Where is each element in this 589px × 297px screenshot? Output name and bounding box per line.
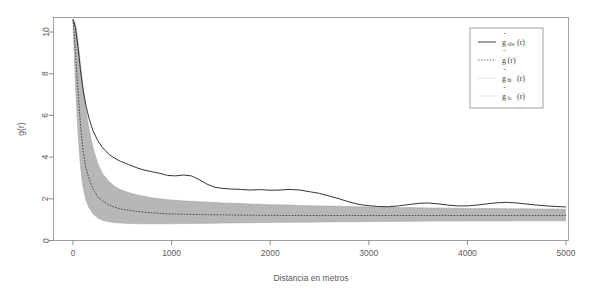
legend-symbol: g [502,56,506,65]
y-tick-label: 0 [41,238,51,243]
x-tick-label: 5000 [557,248,576,258]
y-tick-label: 4 [41,154,51,159]
legend-symbol: g [502,92,506,101]
legend-subscript: lo [507,95,511,101]
y-tick-label: 2 [41,196,51,201]
legend-symbol: g [502,74,506,83]
y-tick-label: 10 [41,27,51,37]
legend-subscript: hi [507,77,512,83]
y-tick-label: 6 [41,113,51,118]
x-tick-label: 0 [71,248,76,258]
y-axis-title: g(r) [16,122,26,135]
legend-subscript: obs [507,41,514,47]
chart-figure: 0100020003000400050000246810Distancia en… [0,0,589,297]
x-axis-title: Distancia en metros [273,273,348,283]
y-tick-label: 8 [41,71,51,76]
legend-argument: (r) [517,74,525,83]
legend-symbol: g [502,38,506,47]
x-tick-label: 4000 [458,248,477,258]
legend-argument: (r) [517,38,525,47]
legend-argument: (r) [517,92,525,101]
x-tick-label: 2000 [261,248,280,258]
x-tick-label: 3000 [359,248,378,258]
plot-svg: 0100020003000400050000246810Distancia en… [0,0,589,297]
legend-argument: (r) [508,56,516,65]
x-tick-label: 1000 [162,248,181,258]
legend-layer: ˆgobs(r)¯g(r)ˆghi(r)ˆglo(r) [470,28,543,108]
